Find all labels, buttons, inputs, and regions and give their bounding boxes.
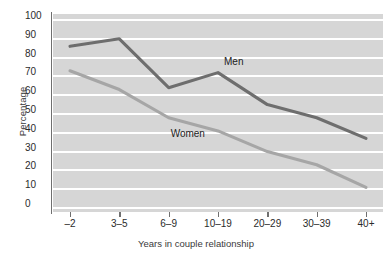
x-axis-tick-mark	[366, 212, 367, 217]
x-axis-tick-mark	[169, 212, 170, 217]
series-label-women: Women	[171, 128, 205, 139]
x-axis-tick-mark	[218, 212, 219, 217]
series-label-men: Men	[224, 56, 243, 67]
line-series-women	[70, 71, 366, 188]
x-axis-tick-mark	[317, 212, 318, 217]
x-axis-title: Years in couple relationship	[0, 238, 392, 249]
x-axis-tick-mark	[267, 212, 268, 217]
chart-figure: Percentage 0102030405060708090100 –23–56…	[0, 0, 392, 262]
x-axis-tick-mark	[119, 212, 120, 217]
x-axis-tick-label: 40+	[336, 218, 392, 229]
x-axis-tick-mark	[70, 212, 71, 217]
